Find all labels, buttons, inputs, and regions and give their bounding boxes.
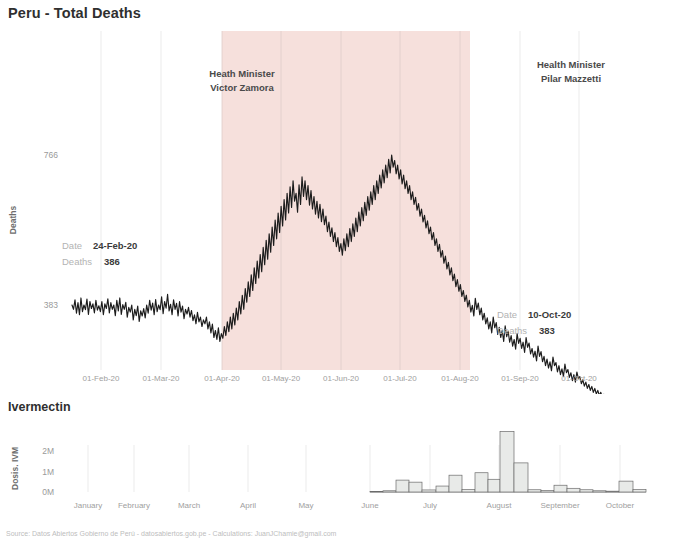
bar-19: [619, 481, 633, 492]
x-tick-label-2: March: [178, 501, 200, 510]
bar-15: [567, 488, 580, 492]
bar-3: [409, 482, 422, 492]
tooltip-date-value: 24-Feb-20: [93, 240, 137, 251]
x-tick-label-2: 01-Apr-20: [204, 374, 240, 383]
bar-11: [514, 463, 528, 492]
y-tick-label-0: 0M: [42, 487, 54, 497]
y-tick-label-2: 2M: [42, 446, 54, 456]
annotation-line1: Health Minister: [537, 59, 605, 70]
bar-18: [606, 491, 619, 492]
x-tick-label-6: July: [423, 501, 437, 510]
x-tick-label-0: January: [74, 501, 102, 510]
section-title-ivermectin: Ivermectin: [8, 400, 71, 414]
bar-6: [449, 475, 462, 492]
bar-7: [462, 490, 475, 492]
x-tick-label-7: 01-Sep-20: [501, 374, 539, 383]
annotation-line1: Heath Minister: [209, 68, 275, 79]
ivermectin-chart: 0M1M2MDosis. IVMJanuaryFebruaryMarchApri…: [0, 420, 680, 520]
tooltip-tooltip-left: Date24-Feb-20Deaths386: [62, 240, 137, 267]
tooltip-deaths-value: 386: [104, 256, 120, 267]
x-tick-label-5: 01-Jul-20: [383, 374, 417, 383]
chart-page: Peru - Total Deaths Ivermectin 383766Dea…: [0, 0, 680, 545]
x-tick-label-9: October: [606, 501, 635, 510]
bar-0: [370, 491, 383, 492]
x-tick-label-1: February: [118, 501, 150, 510]
tooltip-deaths-label: Deaths: [62, 256, 92, 267]
y-tick-label-1: 1M: [42, 467, 54, 477]
bar-1: [383, 491, 396, 492]
x-tick-label-6: 01-Aug-20: [441, 374, 479, 383]
x-tick-label-3: April: [240, 501, 256, 510]
x-tick-label-0: 01-Feb-20: [83, 374, 120, 383]
x-tick-label-8: 01-Oct-20: [561, 374, 597, 383]
bar-9: [488, 479, 500, 492]
x-tick-label-4: 01-Jun-20: [323, 374, 360, 383]
bar-4: [422, 490, 436, 492]
tooltip-date-label: Date: [497, 309, 517, 320]
bar-16: [580, 490, 593, 492]
y-tick-label-1: 766: [44, 150, 58, 160]
deaths-chart: 383766Deaths01-Feb-2001-Mar-2001-Apr-200…: [0, 22, 680, 394]
y-axis-title: Deaths: [8, 206, 18, 235]
bar-12: [528, 490, 541, 492]
x-tick-label-7: August: [487, 501, 513, 510]
bar-10: [500, 432, 514, 492]
bar-17: [593, 491, 606, 492]
tooltip-tooltip-right: Date10-Oct-20Deaths383: [497, 309, 571, 336]
bar-14: [554, 485, 567, 492]
bar-8: [475, 473, 488, 492]
ivermectin-chart-svg: 0M1M2MDosis. IVMJanuaryFebruaryMarchApri…: [0, 420, 680, 520]
tooltip-date-label: Date: [62, 240, 82, 251]
bar-2: [396, 480, 409, 492]
x-tick-label-1: 01-Mar-20: [143, 374, 180, 383]
x-tick-label-8: September: [540, 501, 579, 510]
annotation-line2: Pilar Mazzetti: [541, 73, 601, 84]
tooltip-deaths-value: 383: [539, 325, 555, 336]
deaths-chart-svg: 383766Deaths01-Feb-2001-Mar-2001-Apr-200…: [0, 22, 680, 394]
tooltip-date-value: 10-Oct-20: [528, 309, 571, 320]
annotation-line2: Victor Zamora: [210, 82, 274, 93]
y-tick-label-0: 383: [44, 300, 58, 310]
page-title: Peru - Total Deaths: [8, 5, 141, 21]
annotation-minister-mazzetti: Health MinisterPilar Mazzetti: [537, 59, 605, 84]
bar-13: [541, 491, 554, 492]
tooltip-deaths-label: Deaths: [497, 325, 527, 336]
x-tick-label-3: 01-May-20: [262, 374, 301, 383]
source-footer: Source: Datos Abiertos Gobierno de Perú …: [6, 530, 336, 537]
x-tick-label-5: June: [361, 501, 379, 510]
bar-5: [436, 486, 449, 492]
x-tick-label-4: May: [298, 501, 313, 510]
bar-20: [633, 490, 646, 492]
y-axis-title: Dosis. IVM: [10, 447, 20, 490]
